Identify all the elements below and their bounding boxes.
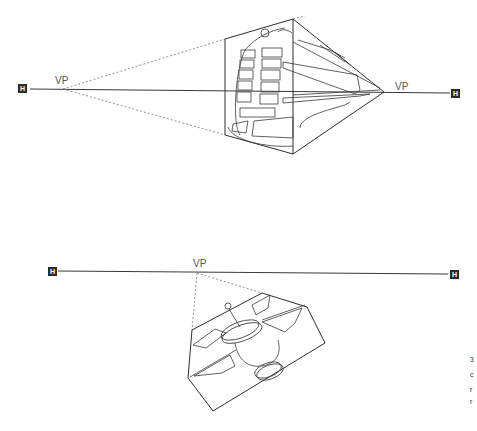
horizon-marker-left-top: H: [18, 84, 27, 93]
edge-text-fragment: r: [470, 398, 472, 405]
perspective-diagram: H H VP VP: [0, 0, 477, 431]
edge-text-fragment: 3: [470, 356, 474, 363]
satellite-bounding-box: [188, 293, 325, 411]
vp-label-left-top: VP: [55, 75, 69, 86]
vp-label-right-top: VP: [395, 81, 409, 92]
horizon-marker-right-top: H: [451, 89, 460, 98]
train-perspective-figure: H H VP VP: [18, 16, 460, 154]
satellite-perspective-figure: H H VP: [48, 258, 459, 411]
horizon-marker-right-bottom: H: [450, 270, 459, 279]
edge-text-fragment: r: [470, 386, 472, 393]
svg-text:H: H: [452, 271, 457, 278]
edge-text-fragment: c: [470, 371, 474, 378]
horizon-marker-left-bottom: H: [48, 267, 57, 276]
vp-label-bottom: VP: [193, 258, 207, 269]
train-bounding-box: [225, 19, 384, 154]
projection-line: [192, 273, 197, 330]
svg-text:H: H: [453, 90, 458, 97]
horizon-line-top: [30, 89, 450, 93]
svg-text:H: H: [20, 85, 25, 92]
projection-line: [63, 39, 225, 89]
projection-line: [293, 16, 305, 19]
projection-line: [63, 89, 225, 135]
svg-text:H: H: [50, 268, 55, 275]
horizon-line-bottom: [58, 271, 448, 274]
projection-line: [197, 273, 262, 293]
